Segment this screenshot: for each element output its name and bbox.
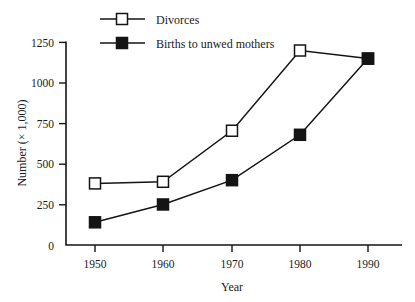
x-axis-ticks	[95, 245, 368, 252]
y-tick-label-1000: 1000	[31, 77, 54, 89]
y-axis-title: Number (× 1,000)	[15, 99, 29, 186]
data-point-marker	[227, 125, 238, 136]
y-tick-label-0: 0	[48, 240, 54, 252]
data-point-marker	[90, 217, 101, 228]
axis-spine-path	[66, 42, 402, 246]
series-line	[95, 51, 368, 184]
y-axis-ticks	[59, 42, 66, 204]
y-axis-tick-labels: 1250 1000 750 500 250 0	[31, 37, 54, 252]
series-line	[95, 59, 368, 223]
data-point-marker	[363, 53, 374, 64]
data-point-marker	[227, 175, 238, 186]
x-tick-label-1960: 1960	[152, 258, 175, 270]
y-tick-label-500: 500	[37, 158, 55, 170]
data-point-marker	[158, 176, 169, 187]
y-tick-label-750: 750	[37, 118, 55, 130]
legend-item-births: Births to unwed mothers	[100, 37, 275, 51]
x-axis-title: Year	[221, 280, 243, 294]
legend-label-births: Births to unwed mothers	[156, 37, 275, 51]
series-births-to-unwed-mothers	[90, 53, 374, 228]
series-layer	[90, 45, 374, 228]
x-tick-label-1990: 1990	[357, 258, 380, 270]
y-tick-label-1250: 1250	[31, 37, 54, 49]
x-tick-label-1980: 1980	[289, 258, 312, 270]
legend-label-divorces: Divorces	[156, 13, 200, 27]
legend-item-divorces: Divorces	[100, 13, 200, 27]
data-point-marker	[90, 178, 101, 189]
line-chart: Divorces Births to unwed mothers 1250 10…	[0, 0, 415, 302]
chart-legend: Divorces Births to unwed mothers	[100, 13, 275, 51]
legend-marker-open-square	[117, 14, 128, 25]
data-point-marker	[295, 45, 306, 56]
series-divorces	[90, 45, 374, 189]
x-axis-tick-labels: 1950 1960 1970 1980 1990	[84, 258, 380, 270]
chart-figure: Divorces Births to unwed mothers 1250 10…	[0, 0, 415, 302]
data-point-marker	[295, 129, 306, 140]
x-tick-label-1950: 1950	[84, 258, 107, 270]
y-tick-label-250: 250	[37, 199, 55, 211]
x-tick-label-1970: 1970	[221, 258, 244, 270]
legend-marker-filled-square	[117, 38, 128, 49]
data-point-marker	[158, 199, 169, 210]
axis-spines	[66, 42, 402, 246]
